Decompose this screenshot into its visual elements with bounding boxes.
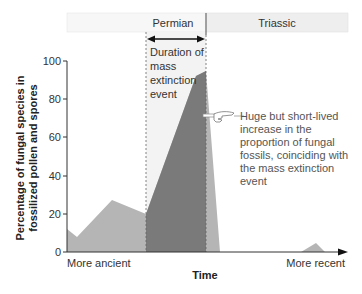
chart-canvas: Permian Triassic Duration of mass extinc… (0, 0, 362, 294)
svg-text:Percentage of fungal species i: Percentage of fungal species in (14, 75, 26, 240)
x-axis-arrow-icon (338, 249, 348, 256)
svg-text:fossilized pollen and spores: fossilized pollen and spores (27, 84, 39, 231)
y-tick-100: 100 (43, 55, 61, 67)
y-tick-20: 20 (49, 208, 61, 220)
y-tick-60: 60 (49, 131, 61, 143)
x-axis-title: Time (192, 269, 217, 281)
y-axis-title: Percentage of fungal species in fossiliz… (14, 75, 39, 240)
y-tick-40: 40 (49, 170, 61, 182)
y-tick-80: 80 (49, 93, 61, 105)
y-tick-0: 0 (55, 246, 61, 258)
triassic-label: Triassic (258, 17, 296, 29)
x-label-right: More recent (286, 257, 345, 269)
y-ticks (63, 61, 67, 252)
fungal-area-bump (301, 243, 325, 252)
permian-label: Permian (153, 17, 194, 29)
callout-text: Huge but short-lived increase in the pro… (240, 110, 351, 187)
x-label-left: More ancient (67, 257, 131, 269)
